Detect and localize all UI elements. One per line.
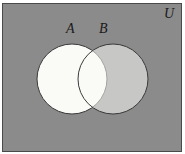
venn-diagram-figure: A B U [0,0,185,154]
set-label-a: A [66,22,75,36]
set-circle-b [78,44,148,114]
set-label-b: B [99,22,108,36]
venn-circles-svg [0,0,185,154]
universal-set-label: U [164,7,175,21]
